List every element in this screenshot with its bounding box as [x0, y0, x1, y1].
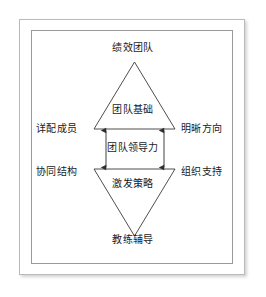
label-collaborative-structure: 协同结构: [36, 166, 77, 178]
figure-root: 绩效团队 团队基础 详配成员 明晰方向 团队领导力 协同结构 组织支持 激发策略…: [0, 0, 266, 297]
label-coaching-guidance: 教练辅导: [112, 234, 153, 246]
label-clear-direction: 明晰方向: [181, 123, 222, 135]
label-team-leadership: 团队领导力: [107, 142, 159, 154]
label-performance-team: 绩效团队: [112, 42, 153, 54]
label-member-fit: 详配成员: [36, 123, 77, 135]
upper-triangle: [94, 62, 175, 129]
label-team-foundation: 团队基础: [112, 104, 153, 116]
label-motivation-strategy: 激发策略: [112, 178, 153, 190]
label-organizational-support: 组织支持: [181, 166, 222, 178]
